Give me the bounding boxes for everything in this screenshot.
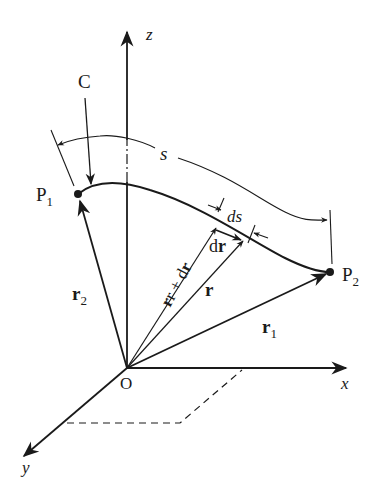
s-arc-left (58, 136, 155, 148)
origin-label: O (120, 374, 132, 393)
y-axis (24, 368, 127, 456)
r2-vector (80, 201, 127, 368)
p2-label: P2 (342, 264, 359, 289)
s-extension-left (51, 130, 74, 186)
ds-label: ds (227, 207, 243, 226)
point-p1 (74, 190, 82, 198)
r-vector (127, 241, 243, 368)
point-p2 (326, 268, 334, 276)
dr-label: dr (209, 236, 226, 256)
x-axis-label: x (340, 374, 349, 393)
z-axis-label: z (145, 25, 153, 44)
r-plus-dr-label: rr + dr (157, 259, 196, 310)
p1-label: P1 (36, 184, 53, 209)
arc-length-label-s: s (160, 143, 167, 164)
curve-diagram: z x y O P1 P2 C s ds dr r2 (0, 0, 385, 500)
curve-label-c: C (78, 71, 91, 92)
y-axis-label: y (20, 458, 30, 477)
s-extension-right (330, 210, 332, 264)
r2-label: r2 (72, 283, 87, 308)
r1-label: r1 (262, 316, 277, 341)
ds-arrow-left (208, 205, 221, 210)
c-pointer-arrow (85, 98, 91, 184)
r-label: r (205, 279, 214, 300)
ds-arrow-right (254, 233, 268, 238)
curve-c (78, 183, 330, 272)
